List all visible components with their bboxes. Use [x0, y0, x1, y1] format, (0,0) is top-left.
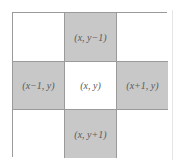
cell-center: (x, y): [65, 62, 117, 110]
cell-top-neighbor: (x, y−1): [65, 13, 117, 62]
cell-left-neighbor: (x−1, y): [13, 62, 65, 110]
neighborhood-grid: (x, y−1) (x−1, y) (x, y) (x+1, y) (x, y+…: [12, 12, 167, 157]
cell-label-right: (x+1, y): [126, 80, 158, 91]
cell-bottom-left: [13, 110, 65, 158]
cell-label-center: (x, y): [80, 80, 101, 91]
cell-label-left: (x−1, y): [22, 80, 54, 91]
cell-right-neighbor: (x+1, y): [117, 62, 168, 110]
cell-top-right: [117, 13, 168, 62]
cell-bottom-right: [117, 110, 168, 158]
edge-divider: [172, 10, 173, 160]
cell-label-bottom: (x, y+1): [74, 129, 106, 140]
cell-label-top: (x, y−1): [74, 32, 106, 43]
cell-top-left: [13, 13, 65, 62]
cell-bottom-neighbor: (x, y+1): [65, 110, 117, 158]
